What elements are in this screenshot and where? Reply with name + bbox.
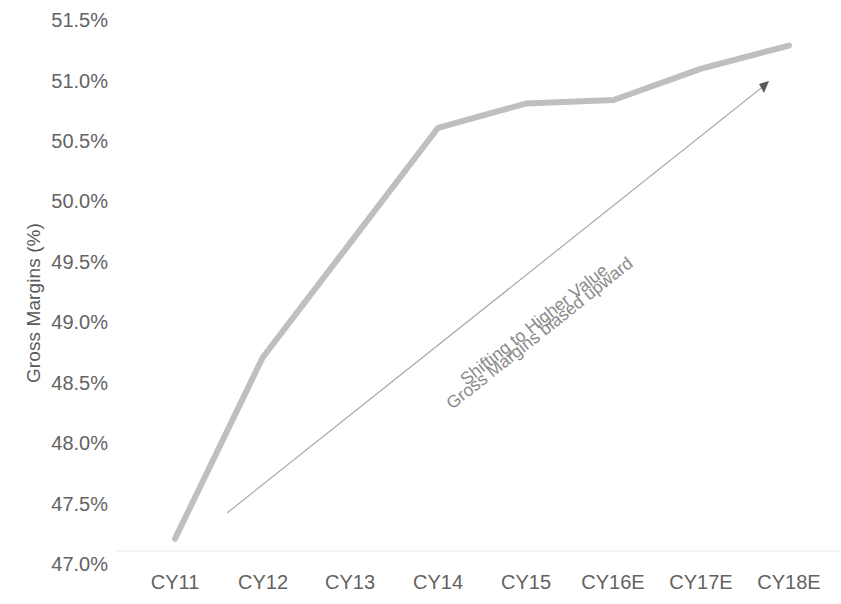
x-axis-tick-labels: CY11 CY12 CY13 CY14 CY15 CY16E CY17E CY1… (0, 0, 841, 604)
x-tick-label-cy18e: CY18E (729, 572, 841, 592)
gross-margins-line-chart: Gross Margins (%) 51.5% 51.0% 50.5% 50.0… (0, 0, 841, 604)
